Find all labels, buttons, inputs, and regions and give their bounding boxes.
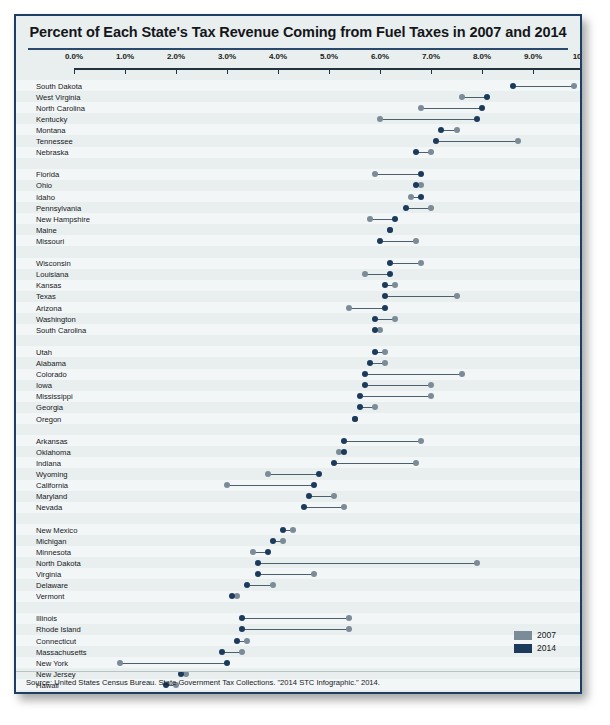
chart-row [16,513,580,524]
data-point-2007 [459,371,465,377]
data-point-2014 [403,205,409,211]
data-point-2014 [382,293,388,299]
connector-line [360,396,431,397]
x-tick-label: 9.0% [524,52,542,61]
row-label-alaska: Alaska [36,691,131,692]
data-point-2007 [244,638,250,644]
connector-line [242,618,349,619]
x-tick-label: 4.0% [269,52,287,61]
x-tick-label: 1.0% [116,52,134,61]
data-point-2014 [387,227,393,233]
row-label-new-mexico: New Mexico [36,525,131,536]
x-tick-label: 0.0% [65,52,83,61]
row-label-texas: Texas [36,291,131,302]
legend-label-2014: 2014 [537,643,556,653]
data-point-2007 [346,615,352,621]
x-tick-mark [431,68,432,74]
x-tick-label: 3.0% [218,52,236,61]
x-tick-mark [380,68,381,74]
data-point-2007 [239,649,245,655]
data-point-2014 [357,404,363,410]
x-tick-mark [329,68,330,74]
connector-line [375,174,421,175]
x-tick-label: 10.0% [573,52,580,61]
data-point-2014 [224,660,230,666]
data-point-2014 [377,238,383,244]
data-point-2014 [474,116,480,122]
x-tick-mark [176,68,177,74]
x-tick-mark [482,68,483,74]
connector-line [436,141,518,142]
row-label-arkansas: Arkansas [36,436,131,447]
row-label-south-carolina: South Carolina [36,325,131,336]
chart-row [16,247,580,258]
data-point-2007 [311,571,317,577]
connector-line [344,441,421,442]
row-label-tennessee: Tennessee [36,136,131,147]
data-point-2014 [413,149,419,155]
data-point-2007 [346,626,352,632]
data-point-2007 [367,216,373,222]
connector-line [334,463,416,464]
data-point-2007 [377,327,383,333]
row-label-oklahoma: Oklahoma [36,447,131,458]
connector-line [421,108,482,109]
data-point-2007 [418,182,424,188]
row-label-massachusetts: Massachusetts [36,647,131,658]
page-title: Percent of Each State's Tax Revenue Comi… [16,24,580,40]
data-point-2014 [413,182,419,188]
row-label-utah: Utah [36,347,131,358]
row-label-idaho: Idaho [36,192,131,203]
data-point-2007 [265,471,271,477]
data-point-2007 [459,94,465,100]
data-point-2007 [280,538,286,544]
connector-line [242,629,349,630]
data-point-2007 [382,349,388,355]
legend-label-2007: 2007 [537,630,556,640]
data-point-2014 [341,449,347,455]
data-point-2014 [372,327,378,333]
row-label-iowa: Iowa [36,380,131,391]
data-point-2014 [362,382,368,388]
row-label-maryland: Maryland [36,491,131,502]
data-point-2007 [413,460,419,466]
data-point-2014 [510,83,516,89]
legend-swatch-2014 [514,644,532,653]
data-point-2007 [408,194,414,200]
data-point-2007 [413,238,419,244]
data-point-2014 [433,138,439,144]
data-point-2014 [341,438,347,444]
row-label-indiana: Indiana [36,458,131,469]
data-point-2014 [372,349,378,355]
chart-row [16,158,580,169]
row-label-rhode-island: Rhode Island [36,624,131,635]
chart-row [16,602,580,613]
data-point-2014 [244,582,250,588]
connector-line [258,574,314,575]
connector-line [385,296,456,297]
x-axis-line [74,68,580,70]
source-note: Source: United States Census Bureau. Sta… [26,678,380,687]
data-point-2014 [362,371,368,377]
data-point-2014 [484,94,490,100]
data-point-2014 [229,593,235,599]
data-point-2014 [392,216,398,222]
legend-item-2007: 2007 [514,630,556,640]
legend: 2007 2014 [514,630,556,656]
data-point-2014 [367,360,373,366]
row-label-oregon: Oregon [36,414,131,425]
data-point-2014 [418,194,424,200]
row-label-delaware: Delaware [36,580,131,591]
data-point-2014 [331,460,337,466]
row-label-maine: Maine [36,225,131,236]
data-point-2014 [316,471,322,477]
row-label-colorado: Colorado [36,369,131,380]
x-tick-mark [227,68,228,74]
x-tick-label: 5.0% [320,52,338,61]
data-point-2007 [382,360,388,366]
row-label-pennsylvania: Pennsylvania [36,203,131,214]
row-label-arizona: Arizona [36,303,131,314]
row-label-north-carolina: North Carolina [36,103,131,114]
data-point-2014 [479,105,485,111]
x-tick-label: 6.0% [371,52,389,61]
